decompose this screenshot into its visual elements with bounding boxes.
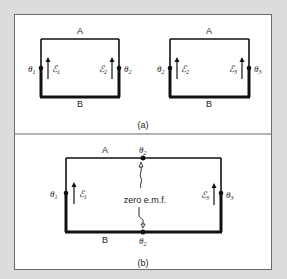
theta-label: θ3 <box>226 190 233 201</box>
caption-b: (b) <box>138 258 149 268</box>
leader-line <box>140 167 141 188</box>
hollow-arrowhead-icon <box>139 162 143 167</box>
label-b: B <box>77 99 83 109</box>
circuit-a-right: A B θ2 ℰ2 ℰ3 θ3 <box>157 26 261 109</box>
theta-label: θ1 <box>28 64 35 75</box>
label-a: A <box>77 26 83 36</box>
emf-label: ℰ1 <box>79 189 87 200</box>
theta-label: θ2 <box>124 64 131 75</box>
arrowhead-icon <box>240 57 245 62</box>
junction-dot <box>39 66 44 71</box>
theta-label: θ2 <box>139 236 146 247</box>
junction-dot <box>141 156 146 161</box>
leader-line <box>139 207 143 224</box>
label-a: A <box>102 145 108 155</box>
junction-dot <box>117 66 122 71</box>
caption-a: (a) <box>138 120 149 130</box>
label-a: A <box>206 26 212 36</box>
theta-label: θ3 <box>254 64 261 75</box>
theta-label: θ2 <box>157 64 164 75</box>
theta-label: θ1 <box>50 189 57 200</box>
theta-label: θ2 <box>139 145 146 156</box>
arrowhead-icon <box>72 182 77 187</box>
zero-emf-annotation: zero e.m.f. <box>124 195 167 205</box>
junction-dot <box>141 230 146 235</box>
label-b: B <box>206 99 212 109</box>
emf-label: ℰ3 <box>201 190 209 201</box>
circuit-b: A B θ2 θ2 θ1 ℰ1 ℰ3 θ3 zero e.m.f. <box>50 145 233 247</box>
arrowhead-icon <box>212 183 217 188</box>
junction-dot <box>168 66 173 71</box>
hollow-arrowhead-icon <box>141 224 145 228</box>
label-b: B <box>102 235 108 245</box>
arrowhead-icon <box>46 57 51 62</box>
thermocouple-diagram: A B θ1 ℰ1 ℰ2 θ2 A B θ2 ℰ2 ℰ3 θ3 (a) <box>0 0 287 279</box>
emf-label: ℰ2 <box>181 64 189 75</box>
arrowhead-icon <box>110 57 115 62</box>
junction-dot <box>219 191 224 196</box>
emf-label: ℰ3 <box>229 64 237 75</box>
arrowhead-icon <box>175 57 180 62</box>
junction-dot <box>247 66 252 71</box>
emf-label: ℰ2 <box>99 64 107 75</box>
emf-label: ℰ1 <box>52 64 60 75</box>
junction-dot <box>64 191 69 196</box>
circuit-a-left: A B θ1 ℰ1 ℰ2 θ2 <box>28 26 131 109</box>
